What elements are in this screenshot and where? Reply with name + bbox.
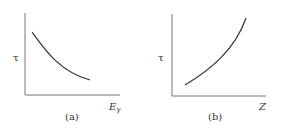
panel-b-y-label: τ [158, 53, 164, 63]
panel-b [172, 14, 266, 96]
panel-b-curve [185, 18, 246, 85]
panel-a-x-label: Eγ [109, 102, 121, 114]
panel-a-y-label: τ [13, 53, 19, 63]
figure-canvas [0, 0, 286, 129]
panel-b-caption: (b) [208, 112, 222, 122]
panel-b-x-label: Z [259, 102, 266, 112]
panel-a-caption: (a) [65, 112, 79, 122]
panel-a [25, 13, 120, 95]
panel-a-x-label-sub: γ [116, 106, 120, 114]
panel-a-curve [32, 32, 90, 80]
